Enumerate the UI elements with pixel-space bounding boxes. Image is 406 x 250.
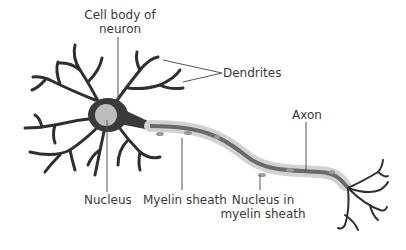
neuron-diagram bbox=[0, 0, 406, 250]
cell-body-label-line2: neuron bbox=[80, 22, 160, 36]
nucleus bbox=[95, 104, 117, 126]
nucleus-in-myelin-line1: Nucleus in bbox=[218, 193, 308, 207]
axon bbox=[150, 126, 348, 188]
cell-body-label-line1: Cell body of bbox=[80, 8, 160, 22]
myelin-sheath-label: Myelin sheath bbox=[143, 193, 227, 207]
nucleus-label: Nucleus bbox=[84, 193, 132, 207]
cell-body-label: Cell body of neuron bbox=[80, 8, 160, 36]
nucleus-in-myelin-line2: myelin sheath bbox=[218, 207, 308, 221]
nucleus-in-myelin-label: Nucleus in myelin sheath bbox=[218, 193, 308, 221]
axon-label: Axon bbox=[292, 108, 322, 122]
dendrites-label: Dendrites bbox=[223, 66, 281, 80]
axon-terminals bbox=[338, 160, 388, 230]
